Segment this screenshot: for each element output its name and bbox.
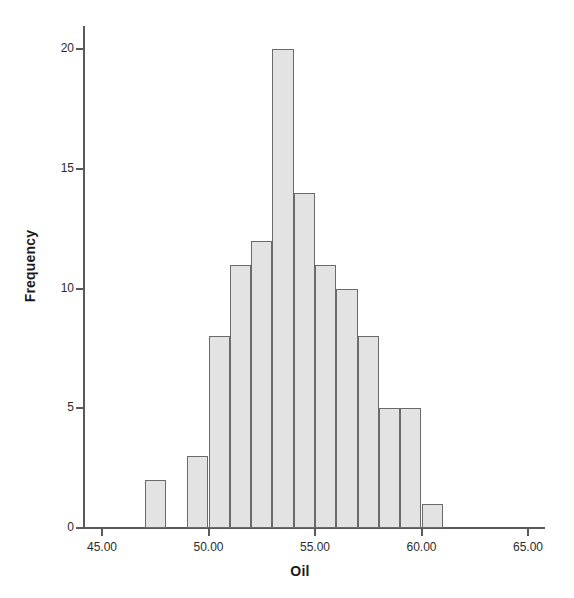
y-tick-label: 20: [46, 41, 74, 55]
y-tick-mark: [76, 288, 83, 290]
y-tick-label: 15: [46, 161, 74, 175]
x-tick-mark: [421, 529, 423, 536]
y-axis-line: [83, 26, 85, 529]
histogram-bar: [294, 193, 315, 528]
histogram-bar: [230, 265, 251, 528]
histogram-bar: [379, 408, 400, 528]
x-tick-mark: [101, 529, 103, 536]
x-tick-label: 50.00: [179, 540, 239, 554]
x-tick-mark: [314, 529, 316, 536]
histogram-bar: [187, 456, 208, 528]
histogram-bar: [145, 480, 166, 528]
y-tick-label: 5: [46, 400, 74, 414]
x-tick-label: 55.00: [285, 540, 345, 554]
histogram-bar: [358, 336, 379, 528]
histogram-bar: [272, 49, 293, 528]
y-tick-label: 0: [46, 520, 74, 534]
y-tick-mark: [76, 527, 83, 529]
x-tick-mark: [527, 529, 529, 536]
histogram-bar: [251, 241, 272, 528]
y-tick-label: 10: [46, 281, 74, 295]
y-tick-mark: [76, 168, 83, 170]
x-tick-label: 45.00: [72, 540, 132, 554]
histogram-bar: [422, 504, 443, 528]
x-tick-mark: [208, 529, 210, 536]
y-tick-mark: [76, 48, 83, 50]
x-axis-title: Oil: [0, 563, 574, 579]
x-tick-label: 60.00: [392, 540, 452, 554]
y-axis-title: Frequency: [22, 206, 38, 326]
y-tick-mark: [76, 407, 83, 409]
histogram-bar: [336, 289, 357, 529]
histogram-chart: 05101520 45.0050.0055.0060.0065.00 Frequ…: [0, 0, 574, 598]
x-tick-label: 65.00: [498, 540, 558, 554]
histogram-bar: [315, 265, 336, 528]
histogram-bar: [400, 408, 421, 528]
histogram-bar: [209, 336, 230, 528]
plot-area: 05101520 45.0050.0055.0060.0065.00 Frequ…: [0, 0, 574, 598]
